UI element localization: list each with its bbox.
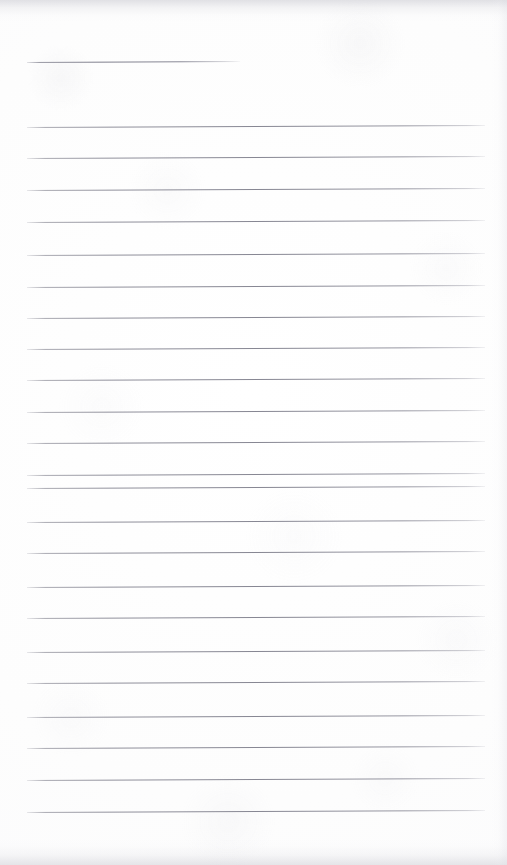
- ruled-line: [27, 650, 485, 653]
- ruled-line: [27, 746, 485, 749]
- ruled-line: [27, 188, 485, 191]
- ruled-line: [27, 410, 485, 413]
- ruled-lines-layer: [0, 0, 507, 865]
- ruled-line: [27, 778, 485, 781]
- ruled-line: [27, 585, 485, 588]
- ruled-line: [27, 810, 485, 813]
- ruled-line: [27, 285, 485, 288]
- ruled-line: [27, 473, 485, 476]
- ruled-line: [27, 486, 485, 489]
- ruled-line: [27, 551, 485, 554]
- ruled-line: [27, 520, 485, 523]
- ruled-line: [27, 378, 485, 381]
- ruled-line: [27, 61, 240, 63]
- ruled-line: [27, 681, 485, 684]
- scanned-page: [0, 0, 507, 865]
- ruled-line: [27, 316, 485, 319]
- ruled-line: [27, 347, 485, 350]
- ruled-line: [27, 253, 485, 256]
- ruled-line: [27, 125, 485, 128]
- ruled-line: [27, 156, 485, 159]
- ruled-line: [27, 616, 485, 619]
- ruled-line: [27, 441, 485, 444]
- ruled-line: [27, 715, 485, 718]
- ruled-line: [27, 220, 485, 223]
